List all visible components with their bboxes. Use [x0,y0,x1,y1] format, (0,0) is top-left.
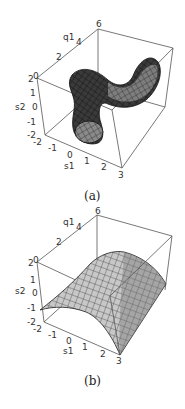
axis-label-s1-b: s1 [63,346,73,356]
tick-s1-2-b: 2 [100,349,106,359]
tick-s1-1-a: 1 [84,156,90,166]
tick-s2-2-a: 2 [28,74,34,84]
caption-a: (a) [84,189,101,203]
tick-q1-2-b: 2 [56,237,62,247]
axis-label-s1-a: s1 [64,161,74,171]
tick-s2-2-b: 2 [28,258,34,268]
tick-q1-4-a: 4 [76,37,82,47]
caption-b: (b) [84,374,101,388]
axis-label-q1-a: q1 [63,32,74,42]
tick-s1-m1-b: -1 [48,330,57,340]
tick-s1-m1-a: -1 [48,143,57,153]
tick-s2-0-b: 0 [32,288,38,298]
axis-label-s2-a: s2 [15,102,25,112]
tick-q1-4-b: 4 [76,222,82,232]
surface-b [40,236,172,355]
figure: q1 6 4 2 0 2 1 s2 0 -1 -2 -2 -1 0 s1 1 2… [0,0,185,409]
tick-s2-m1-a: -1 [27,117,36,127]
tick-q1-6-b: 6 [95,206,101,216]
axis-label-s2-b: s2 [15,286,25,296]
tick-s1-1-b: 1 [82,342,88,352]
tick-s2-m1-b: -1 [27,303,36,313]
tick-s1-m2-b: -2 [33,324,42,334]
tick-s1-m2-a: -2 [33,137,42,147]
tick-s1-3-b: 3 [116,356,122,366]
tick-s1-0-a: 0 [67,150,73,160]
tick-s1-0-b: 0 [66,336,72,346]
tick-q1-2-a: 2 [56,52,62,62]
tick-s2-0-a: 0 [32,102,38,112]
panel-a: q1 6 4 2 0 2 1 s2 0 -1 -2 -2 -1 0 s1 1 2… [15,19,173,203]
tick-s1-3-a: 3 [118,170,124,180]
tick-q1-0-a: 0 [33,71,39,81]
panel-b: q1 6 4 2 0 2 1 s2 0 -1 -2 -2 -1 0 s1 1 2… [15,206,172,388]
tick-s2-1-a: 1 [30,88,36,98]
tick-s1-2-a: 2 [101,162,107,172]
tick-q1-6-a: 6 [96,19,102,29]
axis-label-q1-b: q1 [63,217,74,227]
tick-s2-1-b: 1 [30,275,36,285]
tick-q1-0-b: 0 [33,255,39,265]
surface-a [69,58,160,144]
